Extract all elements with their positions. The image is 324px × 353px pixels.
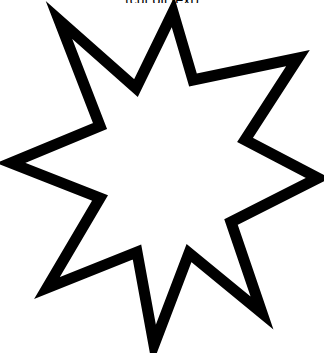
star-outline-icon [11,12,318,345]
star-shape-canvas [0,0,324,353]
